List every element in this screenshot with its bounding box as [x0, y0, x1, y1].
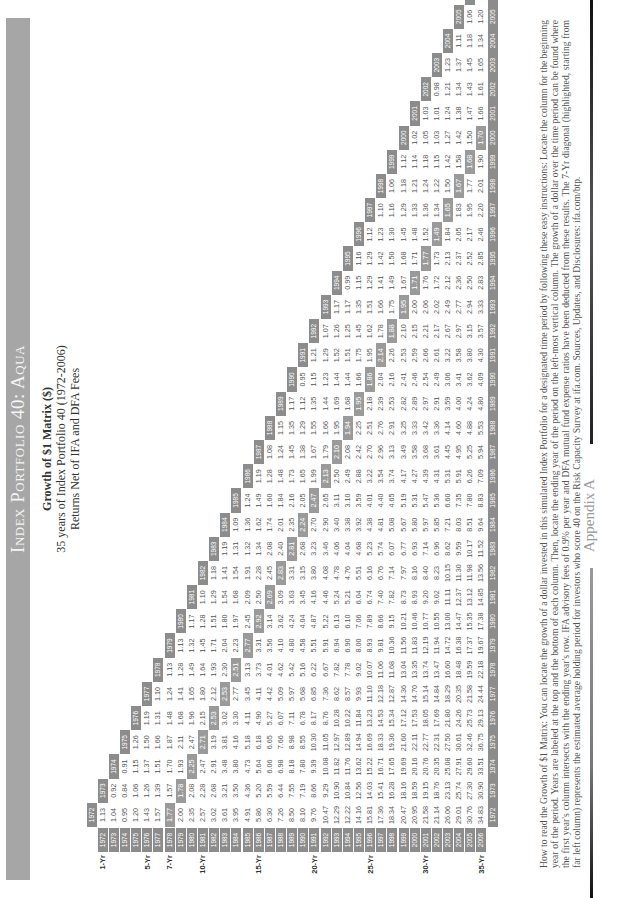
matrix-cell: 20.35: [432, 754, 442, 778]
matrix-cell: 5.24: [332, 585, 342, 609]
matrix-cell: 1.45: [399, 222, 409, 246]
matrix-cell: 5.25: [465, 440, 475, 464]
matrix-cell: 2.00: [176, 803, 186, 827]
column-year-label: 1989: [488, 392, 498, 416]
matrix-cell: 4.11: [243, 706, 253, 730]
matrix-cell: 2.77: [454, 295, 464, 319]
matrix-cell: 4.24: [287, 609, 297, 633]
matrix-cell: 1.84: [443, 222, 453, 246]
matrix-cell: 1.68: [176, 706, 186, 730]
matrix-cell: 5.21: [343, 585, 353, 609]
matrix-cell: 2.49: [443, 295, 453, 319]
footer-divider-right: [590, 0, 593, 444]
page-title: Index Portfolio 40: Aqua: [7, 345, 28, 553]
matrix-cell: 7.55: [287, 779, 297, 803]
matrix-cell: 6.74: [365, 585, 375, 609]
column-year-label: 1976: [488, 706, 498, 730]
matrix-cell: 2.94: [465, 295, 475, 319]
matrix-cell: 2.46: [476, 222, 486, 246]
matrix-cell: 4.36: [243, 779, 253, 803]
matrix-cell: 1.19: [254, 464, 264, 488]
matrix-cell: 2.68: [209, 779, 219, 803]
matrix-cell: 5.97: [421, 513, 431, 537]
matrix-cell: 22.11: [410, 730, 420, 754]
column-year-label: 2004: [488, 29, 498, 53]
matrix-cell: 1.17: [287, 392, 297, 416]
matrix-cell: 4.45: [443, 440, 453, 464]
matrix-cell: 1.34: [454, 77, 464, 101]
matrix-cell: 1.17: [187, 609, 197, 633]
matrix-cell: 2.53: [220, 682, 230, 706]
matrix-cell: 0.92: [109, 779, 119, 803]
matrix-cell: 4.78: [332, 561, 342, 585]
matrix-cell: 9.29: [321, 779, 331, 803]
matrix-cell: 3.22: [443, 343, 453, 367]
matrix-cell: 6.94: [332, 634, 342, 658]
table-row: 19740.950.840.911975: [119, 0, 130, 884]
matrix-cell: 16.38: [454, 634, 464, 658]
matrix-cell: 4.46: [321, 585, 331, 609]
matrix-cell: 2.61: [432, 343, 442, 367]
matrix-cell: 3.31: [287, 561, 297, 585]
matrix-cell: 1.18: [209, 561, 219, 585]
matrix-cell: 17.53: [410, 706, 420, 730]
matrix-cell: 1.65: [443, 198, 453, 222]
matrix-cell: 2.91: [209, 754, 219, 778]
how-to-read-text: How to read the Growth of $1 Matrix: You…: [538, 20, 582, 868]
column-year-label: 1986: [243, 464, 253, 488]
column-year-label: 2002: [421, 77, 431, 101]
matrix-cell: 13.23: [365, 706, 375, 730]
matrix-cell: 19.67: [476, 634, 486, 658]
matrix-cell: 27.30: [465, 779, 475, 803]
row-year-label: 1973: [109, 828, 119, 852]
matrix-cell: 2.20: [476, 198, 486, 222]
matrix-cell: 0.99: [343, 271, 353, 295]
matrix-cell: 1.25: [343, 319, 353, 343]
column-year-label: 2001: [488, 101, 498, 125]
matrix-cell: 16.60: [443, 658, 453, 682]
matrix-cell: 2.14: [376, 343, 386, 367]
matrix-cell: 1.06: [465, 5, 475, 29]
matrix-cell: 6.85: [309, 682, 319, 706]
matrix-cell: 5.85: [432, 513, 442, 537]
matrix-cell: 1.90: [476, 150, 486, 174]
matrix-cell: 11.10: [365, 682, 375, 706]
matrix-cell: 1.02: [410, 126, 420, 150]
column-year-label: 2004: [443, 29, 453, 53]
matrix-cell: 7.82: [332, 658, 342, 682]
matrix-cell: 2.53: [387, 392, 397, 416]
matrix-cell: 8.03: [454, 513, 464, 537]
matrix-cell: 5.23: [365, 537, 375, 561]
matrix-cell: 2.49: [432, 367, 442, 391]
matrix-cell: 1.15: [131, 754, 141, 778]
column-year-label: 1990: [287, 367, 297, 391]
matrix-cell: 10.08: [321, 754, 331, 778]
column-year-label: 1973: [98, 779, 108, 803]
matrix-cell: 5.91: [454, 464, 464, 488]
matrix-cell: 1.73: [287, 464, 297, 488]
matrix-cell: 1.97: [231, 609, 241, 633]
matrix-cell: 2.12: [443, 271, 453, 295]
matrix-cell: 11.94: [432, 634, 442, 658]
matrix-cell: 3.15: [298, 561, 308, 585]
row-year-label: 1983: [220, 828, 230, 852]
matrix-cell: 2.45: [243, 609, 253, 633]
matrix-cell: 29.13: [476, 706, 486, 730]
matrix-cell: 1.51: [343, 343, 353, 367]
matrix-cell: 5.36: [432, 488, 442, 512]
matrix-cell: 4.27: [410, 464, 420, 488]
matrix-cell: 1.57: [165, 779, 175, 803]
matrix-cell: 1.71: [410, 271, 420, 295]
matrix-cell: 1.76: [421, 271, 431, 295]
matrix-cell: 1.23: [321, 367, 331, 391]
matrix-cell: 2.83: [276, 561, 286, 585]
document-page: Index Portfolio 40: Aqua Growth of $1 Ma…: [0, 0, 625, 898]
matrix-title: Growth of $1 Matrix ($): [40, 0, 54, 898]
row-year-label: 1994: [343, 828, 353, 852]
column-year-label: 1987: [254, 440, 264, 464]
matrix-cell: 20.76: [421, 754, 431, 778]
matrix-cell: 1.72: [432, 271, 442, 295]
matrix-cell: 2.51: [231, 658, 241, 682]
row-year-label: 1999: [399, 828, 409, 852]
column-year-label: 2006: [488, 0, 498, 5]
